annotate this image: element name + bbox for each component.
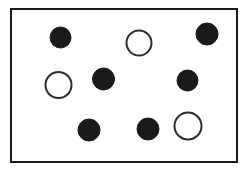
filled-top-right-circle [196,23,218,45]
filled-top-left-circle [50,27,71,48]
filled-middle-right-circle [177,70,198,91]
open-bottom-right-circle [175,113,202,140]
figure-container [0,0,248,178]
filled-bottom-center-circle [137,118,159,140]
open-middle-left-circle [46,72,72,98]
filled-bottom-left-circle [78,119,100,141]
circles-figure-svg [0,0,248,178]
filled-middle-center-circle [93,68,115,90]
open-top-center-circle [127,31,152,56]
